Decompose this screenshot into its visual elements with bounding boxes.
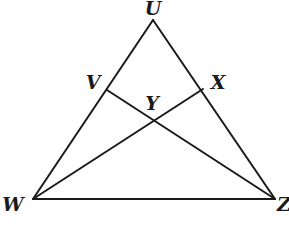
- segment-wx: [33, 89, 203, 199]
- label-v: V: [86, 73, 101, 92]
- triangle-diagram: [0, 0, 289, 229]
- segment-zv: [107, 90, 275, 199]
- segment-uw: [33, 20, 153, 199]
- label-w: W: [2, 195, 23, 214]
- label-u: U: [145, 0, 162, 18]
- label-y: Y: [145, 94, 159, 113]
- label-x: X: [211, 73, 226, 92]
- label-z: Z: [277, 195, 289, 214]
